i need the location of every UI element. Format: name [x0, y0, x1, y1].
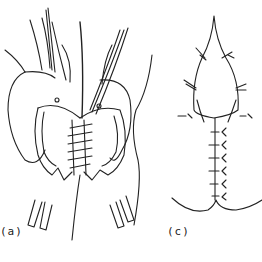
panel-label-c: (c)	[167, 225, 190, 238]
panel-label-a: (a)	[0, 225, 23, 238]
panel-c-drawing	[0, 0, 262, 262]
surgical-illustration: (a) (c)	[0, 0, 262, 262]
